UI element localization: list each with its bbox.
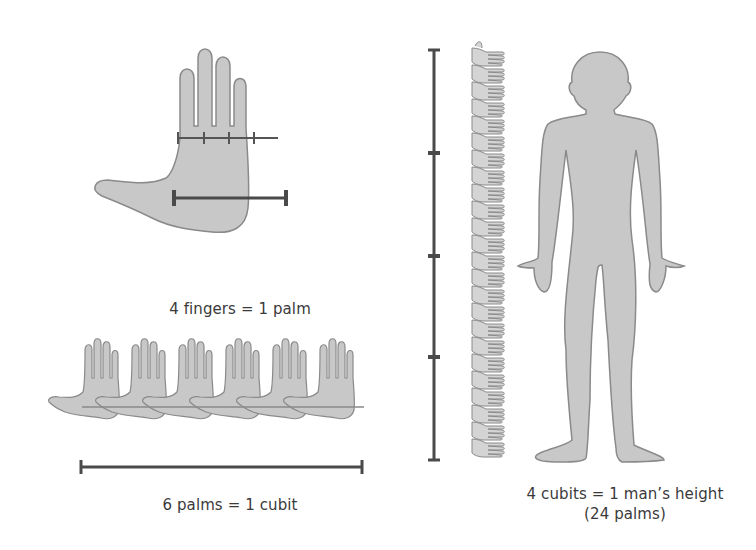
six-palms-row: [49, 339, 364, 419]
height-caption: 4 cubits = 1 man’s height (24 palms): [490, 484, 756, 524]
palm-caption: 4 fingers = 1 palm: [150, 300, 330, 318]
height-measure-bar: [428, 50, 440, 460]
palm-stack: [472, 42, 504, 457]
man-silhouette: [518, 52, 684, 462]
cubit-caption: 6 palms = 1 cubit: [130, 496, 330, 514]
diagram-canvas: [0, 0, 756, 550]
hand-illustration: [95, 49, 249, 232]
height-caption-line1: 4 cubits = 1 man’s height: [490, 484, 756, 504]
height-caption-line2: (24 palms): [490, 504, 756, 524]
cubit-measure-bar: [81, 460, 362, 474]
